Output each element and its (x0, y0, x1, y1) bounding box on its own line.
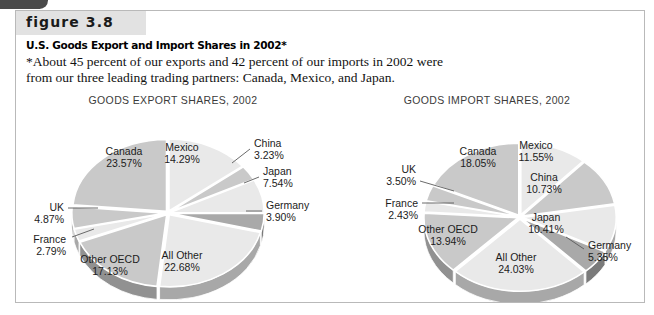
chart-export-shares: GOODS EXPORT SHARES, 2002 Mexico14.29%Ch… (16, 91, 330, 302)
svg-text:5.35%: 5.35% (588, 251, 618, 263)
charts-container: GOODS EXPORT SHARES, 2002 Mexico14.29%Ch… (16, 91, 644, 302)
svg-text:13.94%: 13.94% (430, 235, 466, 247)
figure-footnote-line2: from our three leading trading partners:… (26, 70, 626, 86)
pie-label-japan: Japan7.54% (263, 165, 293, 189)
svg-text:China: China (254, 137, 282, 149)
pie-label-all-other: All Other24.03% (496, 251, 537, 275)
figure-footnote: *About 45 percent of our exports and 42 … (26, 54, 626, 85)
figure-title: U.S. Goods Export and Import Shares in 2… (26, 39, 286, 51)
svg-text:2.43%: 2.43% (388, 209, 418, 221)
svg-text:7.54%: 7.54% (263, 177, 293, 189)
svg-text:All Other: All Other (496, 251, 537, 263)
svg-text:24.03%: 24.03% (498, 263, 534, 275)
svg-text:Canada: Canada (460, 145, 497, 157)
svg-text:23.57%: 23.57% (106, 157, 142, 169)
svg-text:Germany: Germany (266, 199, 310, 211)
pie-label-china: China3.23% (254, 137, 284, 161)
svg-text:3.90%: 3.90% (266, 211, 296, 223)
svg-text:Canada: Canada (106, 145, 143, 157)
svg-text:4.87%: 4.87% (34, 213, 64, 225)
pie-label-uk: UK3.50% (386, 163, 416, 187)
pie-label-germany: Germany3.90% (266, 199, 310, 223)
pie-label-uk: UK4.87% (34, 201, 64, 225)
figure-footnote-line1: *About 45 percent of our exports and 42 … (26, 54, 626, 70)
pie-label-france: France2.43% (385, 197, 418, 221)
pie-label-germany: Germany5.35% (588, 239, 632, 263)
svg-text:Other OECD: Other OECD (418, 223, 478, 235)
svg-text:3.50%: 3.50% (386, 175, 416, 187)
pie-label-mexico: Mexico14.29% (164, 141, 200, 165)
figure-frame: figure 3.8 U.S. Goods Export and Import … (15, 10, 645, 303)
pie-label-china: China10.73% (526, 171, 562, 195)
svg-text:17.13%: 17.13% (92, 265, 128, 277)
svg-text:11.55%: 11.55% (519, 151, 554, 163)
svg-text:France: France (33, 233, 66, 245)
chart-import-shares: GOODS IMPORT SHARES, 2002 Mexico11.55%Ch… (330, 91, 644, 302)
corner-tab-decoration (0, 0, 48, 9)
figure-badge-label: figure 3.8 (26, 14, 114, 30)
svg-text:All Other: All Other (162, 249, 203, 261)
svg-text:14.29%: 14.29% (164, 153, 200, 165)
figure-root: figure 3.8 U.S. Goods Export and Import … (0, 0, 654, 315)
svg-text:3.23%: 3.23% (254, 149, 284, 161)
pie-label-canada: Canada18.05% (460, 145, 497, 169)
pie-label-canada: Canada23.57% (106, 145, 143, 169)
pie-label-mexico: Mexico11.55% (519, 139, 554, 163)
svg-text:10.41%: 10.41% (528, 223, 564, 235)
svg-text:2.79%: 2.79% (36, 245, 66, 257)
svg-text:UK: UK (49, 201, 64, 213)
svg-text:Mexico: Mexico (165, 141, 198, 153)
svg-text:Japan: Japan (532, 211, 561, 223)
svg-text:10.73%: 10.73% (526, 183, 562, 195)
svg-text:Mexico: Mexico (519, 139, 552, 151)
svg-text:18.05%: 18.05% (460, 157, 496, 169)
chart-export-pie: Mexico14.29%China3.23%Japan7.54%Germany3… (16, 91, 330, 302)
svg-text:France: France (385, 197, 418, 209)
chart-import-pie: Mexico11.55%China10.73%Japan10.41%German… (330, 91, 644, 302)
pie-label-japan: Japan10.41% (528, 211, 564, 235)
pie-label-all-other: All Other22.68% (162, 249, 203, 273)
svg-text:Other OECD: Other OECD (80, 253, 140, 265)
svg-text:Japan: Japan (263, 165, 292, 177)
svg-text:China: China (530, 171, 558, 183)
svg-text:22.68%: 22.68% (164, 261, 200, 273)
svg-text:UK: UK (401, 163, 416, 175)
pie-label-france: France2.79% (33, 233, 66, 257)
svg-text:Germany: Germany (588, 239, 632, 251)
